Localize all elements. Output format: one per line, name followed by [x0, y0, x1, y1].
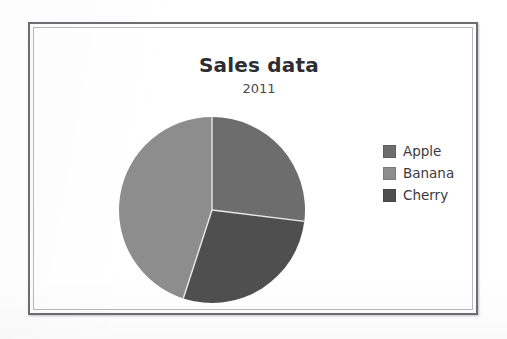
legend-swatch-icon: [383, 145, 396, 158]
pie-chart: [117, 115, 307, 305]
pie-chart-svg: [117, 115, 307, 305]
pie-slice-apple[interactable]: [212, 117, 305, 221]
legend-item-apple[interactable]: Apple: [383, 140, 479, 162]
legend-swatch-icon: [383, 189, 396, 202]
chart-plot-area: Sales data 2011 AppleBananaCherry: [33, 27, 473, 310]
chart-subtitle: 2011: [34, 80, 484, 98]
legend-swatch-icon: [383, 167, 396, 180]
chart-frame: Sales data 2011 AppleBananaCherry: [28, 22, 478, 315]
chart-legend: AppleBananaCherry: [383, 140, 479, 206]
screenshot-canvas: Sales data 2011 AppleBananaCherry: [0, 0, 507, 339]
legend-item-cherry[interactable]: Cherry: [383, 184, 479, 206]
legend-item-banana[interactable]: Banana: [383, 162, 479, 184]
legend-item-label: Banana: [403, 165, 454, 181]
legend-item-label: Apple: [403, 143, 441, 159]
chart-title: Sales data: [34, 54, 484, 76]
chart-title-block: Sales data 2011: [34, 54, 484, 98]
legend-item-label: Cherry: [403, 187, 448, 203]
